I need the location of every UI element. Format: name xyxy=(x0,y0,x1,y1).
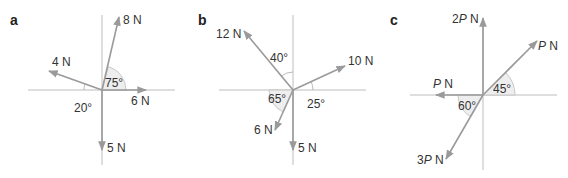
panel-label-a: a xyxy=(10,12,18,28)
angle-label-65: 65° xyxy=(268,92,286,106)
angle-label-75: 75° xyxy=(105,76,123,90)
force-arrow-4n xyxy=(49,71,102,90)
angle-label-45: 45° xyxy=(493,82,511,96)
force-label-2p: 2P N xyxy=(452,12,479,26)
force-label-5n: 5 N xyxy=(107,141,126,155)
panel-b: b 12 N 10 N 6 N 5 N 40° 25° 65° xyxy=(198,12,373,165)
angle-label-40: 40° xyxy=(270,51,288,65)
angle-label-20: 20° xyxy=(74,101,92,115)
angle-label-60: 60° xyxy=(458,99,476,113)
force-label-4n: 4 N xyxy=(52,55,71,69)
force-label-8n: 8 N xyxy=(123,13,142,27)
force-label-3p: 3P N xyxy=(417,153,444,167)
force-label-10n: 10 N xyxy=(348,54,373,68)
force-label-p-left: P N xyxy=(433,77,453,91)
angle-label-25: 25° xyxy=(307,97,325,111)
force-arrow-10n xyxy=(293,66,345,90)
angle-arc-40 xyxy=(281,72,293,76)
panel-label-b: b xyxy=(198,12,207,28)
force-label-p-diag: P N xyxy=(538,39,558,53)
panel-a: a 8 N 4 N 6 N 5 N 75° 20° xyxy=(10,12,175,165)
force-label-6n: 6 N xyxy=(254,123,273,137)
force-diagrams: a 8 N 4 N 6 N 5 N 75° 20° b 12 N 1 xyxy=(0,0,568,178)
panel-c: c 2P N P N P N 3P N 45° 60° xyxy=(390,12,558,170)
force-label-6n: 6 N xyxy=(131,94,150,108)
force-label-5n: 5 N xyxy=(298,141,317,155)
force-label-12n: 12 N xyxy=(216,27,241,41)
panel-label-c: c xyxy=(390,12,398,28)
angle-arc-25 xyxy=(311,82,313,91)
